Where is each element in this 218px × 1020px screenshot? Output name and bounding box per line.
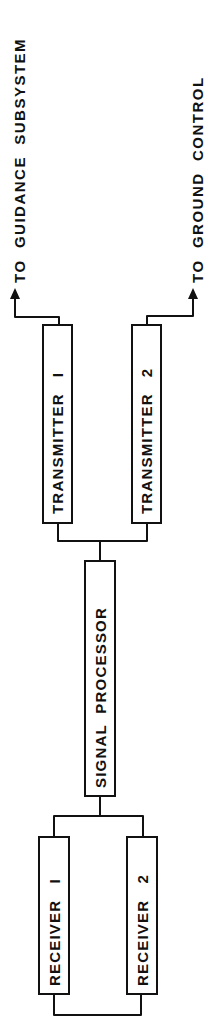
signal-processor-label: SIGNAL PROCESSOR bbox=[92, 607, 109, 788]
label-to-guidance-subsystem: TO GUIDANCE SUBSYSTEM bbox=[11, 38, 28, 283]
wire-receiver-crosslink bbox=[54, 994, 141, 1015]
arrow-up-icon bbox=[10, 288, 20, 299]
label-to-ground-control: TO GROUND CONTROL bbox=[189, 76, 206, 283]
block-diagram: TO GUIDANCE SUBSYSTEM TO GROUND CONTROL … bbox=[0, 0, 218, 1020]
receiver-2-label: RECEIVER 2 bbox=[134, 874, 151, 986]
wire-receiver-fork bbox=[54, 816, 143, 837]
transmitter-2-block: TRANSMITTER 2 bbox=[132, 325, 161, 523]
output-ground: TO GROUND CONTROL bbox=[147, 76, 206, 325]
transmitter-1-label: TRANSMITTER I bbox=[49, 372, 66, 514]
transmitter-2-label: TRANSMITTER 2 bbox=[138, 368, 155, 514]
receiver-2-block: RECEIVER 2 bbox=[127, 837, 157, 994]
transmitter-1-block: TRANSMITTER I bbox=[43, 325, 72, 523]
receiver-1-label: RECEIVER I bbox=[46, 878, 63, 986]
arrow-up-icon bbox=[188, 288, 198, 299]
wire-transmitter2-output bbox=[147, 297, 193, 325]
signal-processor-block: SIGNAL PROCESSOR bbox=[85, 561, 115, 796]
wire-transmitter1-output bbox=[15, 297, 59, 325]
wire-transmitter-fork bbox=[58, 523, 147, 541]
output-guidance: TO GUIDANCE SUBSYSTEM bbox=[10, 38, 59, 325]
receiver-1-block: RECEIVER I bbox=[39, 837, 69, 994]
